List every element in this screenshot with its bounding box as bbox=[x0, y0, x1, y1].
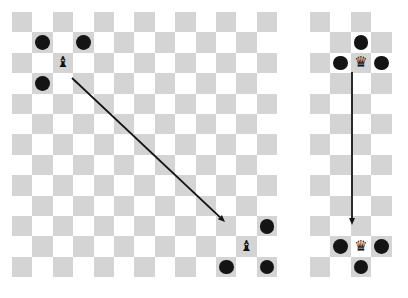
diagram-stage: ♝♝♛♛ bbox=[0, 0, 408, 298]
arrow-layer bbox=[0, 0, 408, 298]
diagonal-move-arrow bbox=[72, 78, 225, 222]
arrow-shaft bbox=[72, 78, 220, 217]
vertical-move-arrow bbox=[349, 72, 355, 225]
arrow-head bbox=[349, 218, 355, 225]
